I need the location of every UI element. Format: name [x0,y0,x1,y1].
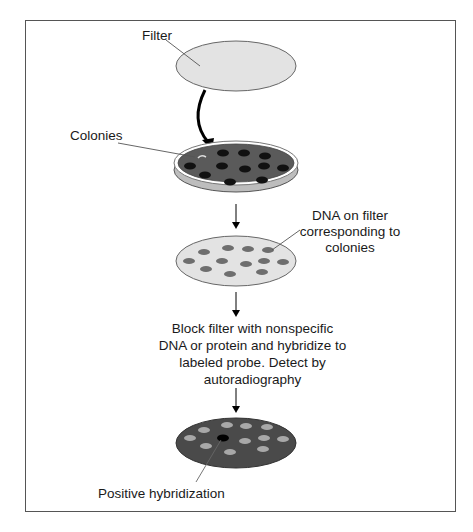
positive-hybridization-label: Positive hybridization [98,486,225,502]
petri-dish [118,141,298,192]
down-arrow-icon [232,204,240,229]
colonies-label: Colonies [70,128,123,144]
diagram-artwork [0,0,473,532]
transfer-arrow-icon [198,90,214,150]
filter-label: Filter [142,28,172,44]
step-line: autoradiography [140,371,365,388]
dna-filter [176,230,300,286]
step-line: Block filter with nonspecific [140,320,365,337]
autoradiograph [176,418,296,482]
dna-on-filter-label: DNA on filter corresponding to colonies [285,208,415,256]
dna-label-line: corresponding to [285,224,415,240]
dna-label-line: colonies [285,240,415,256]
positive-spot [217,435,229,442]
step-line: labeled probe. Detect by [140,354,365,371]
down-arrow-icon [232,388,240,413]
step-line: DNA or protein and hybridize to [140,337,365,354]
filter-shape [166,40,296,91]
down-arrow-icon [232,292,240,317]
dna-label-line: DNA on filter [285,208,415,224]
hybridization-step-label: Block filter with nonspecific DNA or pro… [140,320,365,388]
